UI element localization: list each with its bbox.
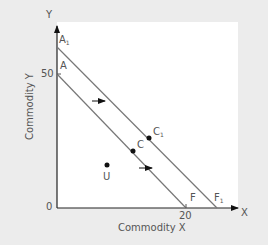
curve-a1f1 — [57, 47, 217, 208]
label-a1: A1 — [59, 35, 70, 46]
label-f: F — [190, 193, 196, 203]
point-c — [131, 149, 136, 154]
ppf-diagram — [0, 0, 268, 245]
label-f1: F1 — [214, 193, 224, 204]
x-axis-title: Commodity X — [118, 223, 186, 233]
y-axis-title: Commodity Y — [24, 73, 35, 140]
curve-af — [57, 74, 186, 208]
x-axis-end-label: X — [241, 208, 248, 218]
label-c: C — [137, 140, 144, 150]
x-tick-label: 20 — [179, 211, 192, 221]
label-c1: C1 — [153, 127, 164, 138]
origin-label: 0 — [46, 202, 52, 212]
y-tick-label: 50 — [41, 69, 54, 79]
label-a: A — [60, 61, 67, 71]
y-axis-end-label: Y — [46, 10, 52, 20]
label-u: U — [103, 172, 110, 182]
point-c1 — [147, 136, 152, 141]
point-u — [105, 163, 110, 168]
